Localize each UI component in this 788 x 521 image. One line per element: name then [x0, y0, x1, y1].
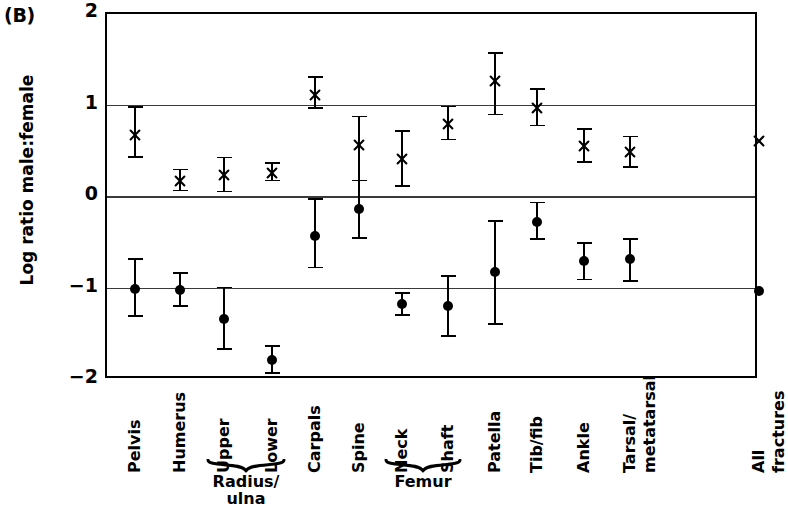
y-tick-label: −1 — [58, 276, 98, 295]
error-bar-cap — [128, 156, 143, 158]
y-tick-label: 1 — [58, 93, 98, 112]
marker-circle — [130, 284, 140, 294]
error-bar-cap — [173, 169, 188, 171]
error-bar-cap — [395, 185, 410, 187]
x-tick-label-tarsal-metatarsal: metatarsal — [640, 375, 659, 473]
error-bar-cap — [395, 130, 410, 132]
marker-cross — [442, 118, 454, 130]
error-bar-cap — [308, 76, 323, 78]
marker-cross — [753, 135, 765, 147]
x-tick-label-patella: Patella — [485, 411, 504, 473]
error-bar-cap — [488, 52, 503, 54]
error-bar-cap — [308, 107, 323, 109]
error-bar-cap — [623, 238, 638, 240]
error-bar-cap — [173, 190, 188, 192]
marker-circle — [267, 355, 277, 365]
group-label: Radius/ulna — [166, 474, 326, 508]
y-axis-ticks: 210−1−2 — [52, 0, 98, 380]
marker-circle — [443, 301, 453, 311]
error-bar-cap — [577, 128, 592, 130]
error-bar-cap — [488, 114, 503, 116]
marker-circle — [310, 231, 320, 241]
error-bar-cap — [352, 237, 367, 239]
marker-cross — [489, 75, 501, 87]
marker-cross — [578, 140, 590, 152]
error-bar-cap — [530, 88, 545, 90]
x-tick-label-ankle: Ankle — [574, 422, 593, 473]
error-bar-cap — [217, 157, 232, 159]
y-tick-label: 2 — [58, 1, 98, 20]
error-bar-cap — [441, 139, 456, 141]
marker-cross — [353, 139, 365, 151]
error-bar-cap — [128, 106, 143, 108]
error-bar-cap — [530, 202, 545, 204]
error-bar-cap — [128, 315, 143, 317]
marker-cross — [218, 169, 230, 181]
group-label-line: ulna — [166, 491, 326, 508]
error-bar-cap — [577, 161, 592, 163]
marker-circle — [754, 286, 764, 296]
gridline — [107, 105, 755, 107]
error-bar-cap — [173, 305, 188, 307]
plot-area — [105, 12, 757, 378]
group-brace — [206, 458, 286, 471]
x-tick-label-humerus: Humerus — [170, 392, 189, 473]
marker-cross — [531, 102, 543, 114]
group-label-line: Femur — [344, 474, 502, 491]
panel-label: (B) — [4, 4, 35, 26]
x-tick-label-all-fractures: All — [749, 450, 768, 473]
error-bar-cap — [577, 279, 592, 281]
error-bar-cap — [623, 166, 638, 168]
marker-circle — [532, 217, 542, 227]
error-bar-cap — [265, 162, 280, 164]
x-tick-label-carpals: Carpals — [305, 405, 324, 473]
error-bar-cap — [265, 372, 280, 374]
marker-circle — [625, 254, 635, 264]
error-bar-cap — [217, 287, 232, 289]
error-bar-cap — [530, 238, 545, 240]
error-bar-cap — [352, 116, 367, 118]
error-bar-cap — [395, 314, 410, 316]
error-bar-cap — [217, 191, 232, 193]
marker-cross — [174, 175, 186, 187]
x-tick-label-all-fractures: fractures — [769, 391, 788, 473]
marker-cross — [309, 89, 321, 101]
error-bar-cap — [308, 198, 323, 200]
error-bar-cap — [217, 348, 232, 350]
x-tick-label-tib-fib: Tib/fib — [527, 416, 546, 473]
marker-circle — [397, 299, 407, 309]
x-tick-label-spine: Spine — [349, 422, 368, 473]
group-brace — [384, 458, 462, 471]
error-bar-cap — [128, 258, 143, 260]
error-bar-cap — [352, 180, 367, 182]
marker-circle — [354, 204, 364, 214]
error-bar-cap — [308, 267, 323, 269]
x-tick-label-pelvis: Pelvis — [125, 420, 144, 474]
marker-circle — [175, 285, 185, 295]
error-bar-cap — [265, 345, 280, 347]
y-axis-label: Log ratio male:female — [17, 65, 37, 295]
marker-circle — [219, 314, 229, 324]
error-bar-cap — [173, 272, 188, 274]
gridline — [107, 288, 755, 290]
y-tick-label: −2 — [58, 367, 98, 386]
marker-cross — [396, 153, 408, 165]
gridline — [107, 196, 755, 198]
error-bar-cap — [623, 280, 638, 282]
error-bar-cap — [441, 275, 456, 277]
error-bar-cap — [623, 136, 638, 138]
marker-cross — [129, 129, 141, 141]
group-label: Femur — [344, 474, 502, 491]
error-bar-cap — [441, 106, 456, 108]
error-bar-cap — [488, 323, 503, 325]
x-tick-label-tarsal-metatarsal: Tarsal/ — [620, 414, 639, 473]
error-bar-cap — [441, 335, 456, 337]
error-bar-cap — [577, 242, 592, 244]
error-bar-cap — [488, 220, 503, 222]
error-bar-cap — [530, 125, 545, 127]
marker-cross — [624, 146, 636, 158]
y-tick-label: 0 — [58, 184, 98, 203]
marker-cross — [266, 167, 278, 179]
marker-circle — [579, 256, 589, 266]
